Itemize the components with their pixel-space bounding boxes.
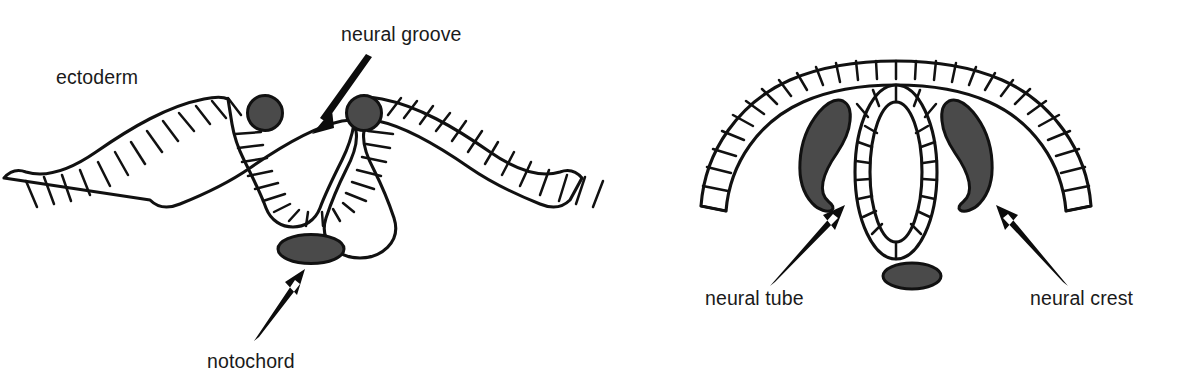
- label-notochord: notochord: [207, 350, 295, 372]
- notochord-right-panel: [883, 263, 941, 289]
- neural-tube-lumen: [870, 102, 922, 242]
- neural-crest-cell-right: [347, 96, 382, 131]
- label-neural-groove: neural groove: [341, 23, 462, 45]
- neural-crest-cell-left: [248, 96, 283, 131]
- neurulation-figure: ectoderm neural groove notochord: [0, 0, 1182, 376]
- label-neural-crest: neural crest: [1030, 287, 1134, 309]
- label-ectoderm: ectoderm: [56, 66, 138, 88]
- label-neural-tube: neural tube: [705, 287, 804, 309]
- neural-tube: [855, 85, 937, 259]
- notochord-left-panel: [278, 235, 344, 264]
